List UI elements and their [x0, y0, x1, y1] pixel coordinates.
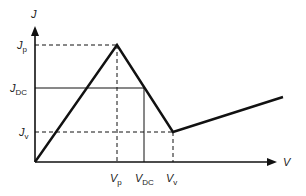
x-axis-arrow-icon [267, 158, 277, 166]
x-tick-vv: Vv [166, 172, 177, 187]
y-tick-jv: Jv [18, 126, 29, 141]
y-tick-jp: Jp [16, 39, 28, 54]
y-tick-jdc: JDC [9, 82, 27, 97]
axes [31, 26, 277, 166]
x-axis-label: V [283, 156, 292, 168]
y-axis-arrow-icon [31, 26, 39, 36]
iv-characteristic-diagram: J V Jp JDC Jv Vp VDC Vv [0, 0, 306, 196]
x-tick-vp: Vp [110, 172, 122, 187]
x-tick-vdc: VDC [135, 172, 154, 187]
jv-curve [35, 45, 283, 162]
y-axis-label: J [30, 8, 37, 20]
